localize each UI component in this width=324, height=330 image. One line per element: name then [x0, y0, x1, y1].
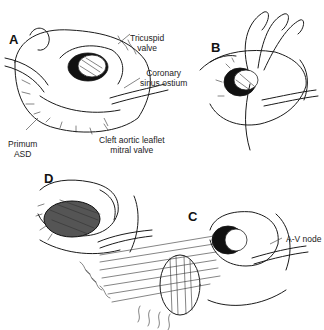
panel-label-d: D	[44, 171, 53, 186]
surgical-illustration: A B C D Tricuspid valve Coronary sinus o…	[0, 0, 324, 330]
label-line: Cleft aortic leaflet	[99, 135, 165, 145]
panel-label-b: B	[211, 40, 220, 55]
panel-b-drawing	[200, 12, 318, 150]
label-line: valve	[130, 43, 164, 53]
label-line: sinus ostium	[140, 78, 187, 88]
label-cleft-aortic-leaflet: Cleft aortic leaflet mitral valve	[99, 135, 165, 155]
label-tricuspid-valve: Tricuspid valve	[130, 33, 164, 53]
label-coronary-sinus-ostium: Coronary sinus ostium	[140, 68, 187, 88]
label-line: A-V node	[286, 234, 321, 244]
label-line: Primum	[8, 139, 37, 149]
label-line: Tricuspid	[130, 33, 164, 43]
label-line: Coronary	[140, 68, 187, 78]
label-primum-asd: Primum ASD	[8, 139, 37, 159]
panel-label-a: A	[9, 32, 18, 47]
label-av-node: A-V node	[286, 234, 321, 244]
label-line: ASD	[8, 149, 37, 159]
panel-label-c: C	[188, 209, 197, 224]
label-line: mitral valve	[99, 145, 165, 155]
panel-d-drawing	[36, 180, 152, 254]
panel-c-drawing	[80, 212, 308, 330]
